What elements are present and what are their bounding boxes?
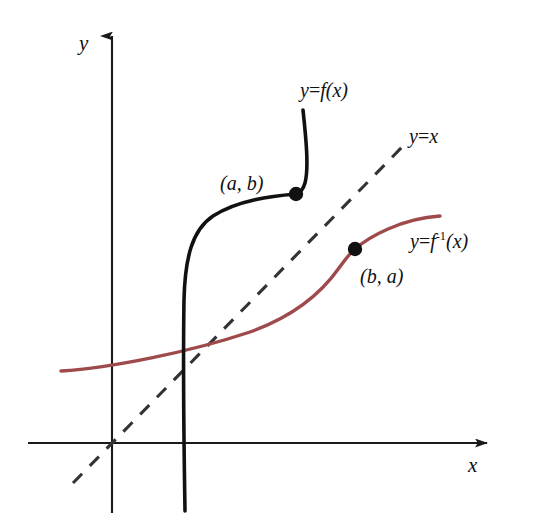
inverse-label-y: y [410, 230, 419, 252]
x-axis-label: x [468, 455, 477, 476]
identity-line-label: y=x [409, 126, 438, 146]
identity-label-equals: = [418, 125, 429, 147]
point-b-a-dot [348, 242, 362, 256]
diagram-canvas [0, 0, 543, 523]
function-curve-label: y=f(x) [300, 80, 348, 100]
function-label-y: y [300, 79, 309, 101]
y-axis-label: y [79, 33, 88, 54]
inverse-label-argument: (x) [446, 230, 468, 252]
identity-line-y-equals-x [73, 143, 406, 483]
inverse-label-exponent: -1 [436, 229, 446, 243]
identity-label-body: x [429, 125, 438, 147]
function-curve [184, 110, 307, 511]
point-a-b-dot [289, 187, 303, 201]
point-a-b-label: (a, b) [220, 173, 263, 193]
point-b-a-label: (b, a) [360, 266, 403, 286]
function-label-equals: = [309, 79, 320, 101]
inverse-function-curve-label: y=f-1(x) [410, 231, 468, 251]
identity-label-y: y [409, 125, 418, 147]
inverse-function-curve [61, 216, 440, 371]
inverse-function-diagram: y x y=f(x) y=x y=f-1(x) (a, b) (b, a) [0, 0, 543, 523]
inverse-label-equals: = [419, 230, 430, 252]
function-label-body: f(x) [320, 79, 348, 101]
